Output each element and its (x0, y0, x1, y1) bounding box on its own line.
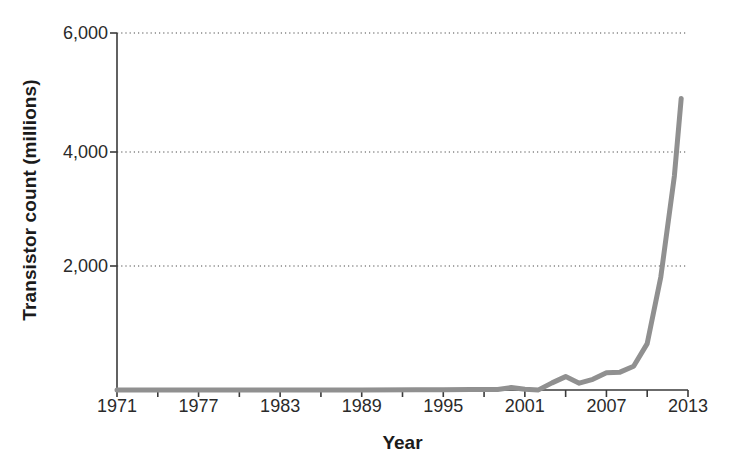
y-axis-ticks (110, 33, 117, 266)
axis-lines (117, 33, 688, 390)
x-tick-label-2007: 2007 (586, 396, 626, 417)
data-series-line (117, 98, 681, 390)
x-axis-title: Year (117, 432, 688, 454)
x-tick-label-2001: 2001 (505, 396, 545, 417)
x-tick-label-2013: 2013 (668, 396, 708, 417)
x-tick-label-1995: 1995 (423, 396, 463, 417)
gridlines (117, 33, 688, 266)
x-tick-label-1983: 1983 (260, 396, 300, 417)
transistor-count-chart: Transistor count (millions) 6,000 4,000 … (0, 0, 737, 472)
x-tick-label-1989: 1989 (342, 396, 382, 417)
x-tick-label-1977: 1977 (179, 396, 219, 417)
x-tick-label-1971: 1971 (97, 396, 137, 417)
